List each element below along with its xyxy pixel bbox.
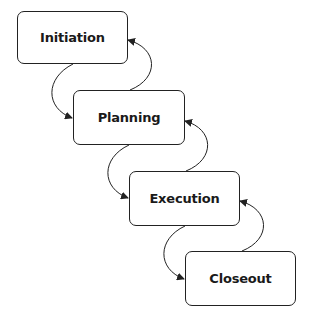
stage-label: Initiation: [40, 30, 105, 45]
arrow-planning-to-execution: [108, 145, 129, 198]
stage-execution: Execution: [129, 171, 240, 226]
arrow-planning-to-initiation: [128, 40, 152, 90]
stage-label: Planning: [98, 110, 161, 125]
stage-closeout: Closeout: [185, 251, 296, 306]
stage-planning: Planning: [73, 90, 185, 145]
stage-label: Closeout: [209, 271, 271, 286]
arrow-initiation-to-planning: [52, 64, 73, 118]
arrow-execution-to-closeout: [164, 226, 185, 279]
arrow-execution-to-planning: [185, 121, 208, 171]
stage-initiation: Initiation: [17, 11, 128, 64]
stage-label: Execution: [149, 191, 219, 206]
arrow-closeout-to-execution: [240, 201, 264, 251]
